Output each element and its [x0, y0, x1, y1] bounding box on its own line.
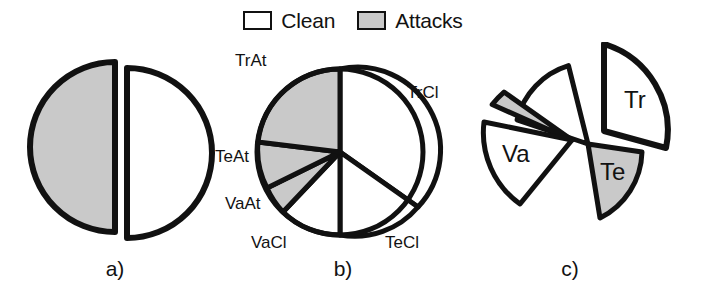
- pie-a-slice-attacks: [30, 62, 115, 232]
- pie-chart-c: Tr Te Va: [460, 42, 706, 257]
- caption-b: b): [313, 258, 373, 280]
- pie-c-label-va: Va: [502, 140, 530, 167]
- pie-b-label-trcl: TrCl: [407, 83, 438, 102]
- pie-c-label-tr: Tr: [624, 86, 646, 113]
- legend-swatch-clean-icon: [243, 11, 272, 30]
- caption-c: c): [540, 258, 600, 280]
- legend-entry-attacks: Attacks: [357, 10, 462, 31]
- pie-chart-b: TrAt TrCl TeAt VaAt VaCl TeCl: [215, 42, 460, 257]
- pie-b-label-vacl: VaCl: [251, 233, 287, 252]
- legend-entry-clean: Clean: [243, 10, 335, 31]
- pie-a-slice-clean: [127, 68, 212, 238]
- legend: Clean Attacks: [0, 10, 706, 31]
- figure-pie-chart-panels: Clean Attacks: [0, 0, 706, 302]
- pie-a-svg: [10, 42, 225, 257]
- pie-b-label-vaat: VaAt: [225, 194, 261, 213]
- pie-b-label-tecl: TeCl: [385, 233, 419, 252]
- pie-c-label-te: Te: [600, 158, 625, 185]
- pie-b-svg: TrAt TrCl TeAt VaAt VaCl TeCl: [215, 42, 460, 257]
- pie-a-slices: [30, 62, 212, 238]
- pie-c-group-tr: Tr: [604, 44, 668, 148]
- legend-label-attacks: Attacks: [395, 10, 462, 31]
- legend-label-clean: Clean: [281, 10, 335, 31]
- caption-a: a): [85, 258, 145, 280]
- pie-b-label-teat: TeAt: [215, 147, 249, 166]
- pie-chart-a: [10, 42, 225, 257]
- pie-c-svg: Tr Te Va: [460, 42, 706, 257]
- legend-swatch-attacks-icon: [357, 11, 386, 30]
- pie-b-label-trat: TrAt: [235, 51, 267, 70]
